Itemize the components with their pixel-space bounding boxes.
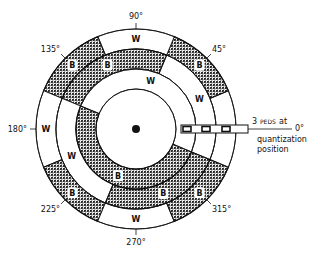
angle-marker-label: 270°: [126, 238, 145, 247]
middle-track-label: B: [103, 60, 113, 71]
segment-letter: W: [146, 77, 155, 86]
peds-at: at: [279, 117, 287, 126]
outer-track-label: B: [67, 187, 77, 198]
segment-letter: W: [132, 215, 141, 224]
segment-letter: B: [197, 61, 203, 70]
segment-letter: W: [195, 95, 204, 104]
angle-marker-label: 90°: [129, 12, 143, 21]
angle-marker-label: 225°: [41, 205, 60, 214]
segment-letter: B: [104, 61, 110, 70]
outer-track-label: W: [132, 35, 141, 44]
ped-sensor-strip: [181, 125, 292, 133]
segment-letter: B: [69, 189, 75, 198]
angle-tick: [207, 200, 211, 204]
zero-degree-label: 0°: [295, 124, 304, 133]
segment-letter: W: [42, 125, 51, 134]
ped-sensor-3: [222, 127, 230, 132]
outer-track-label: B: [67, 60, 77, 71]
outer-track-label: B: [195, 187, 205, 198]
ped-sensor-2: [202, 127, 210, 132]
segment-letter: B: [115, 172, 121, 181]
segment-letter: B: [197, 189, 203, 198]
position-label: position: [257, 145, 289, 154]
segment-letter: W: [67, 152, 76, 161]
angle-tick: [207, 54, 211, 58]
angle-marker-label: 180°: [8, 125, 27, 134]
middle-track-label: W: [67, 152, 76, 161]
inner-track-label: W: [146, 77, 155, 86]
middle-track-label: W: [195, 95, 204, 104]
peds-label: PEDS: [260, 118, 276, 125]
quantization-label: quantization: [257, 135, 307, 144]
inner-track-label: B: [113, 170, 123, 181]
segment-letter: B: [160, 189, 166, 198]
angle-marker-label: 315°: [212, 205, 231, 214]
segment-letter: W: [132, 35, 141, 44]
encoder-disk-diagram: WBWBWBWBWBWBWB 90°45°135°180°225°270°315…: [0, 0, 321, 259]
angle-tick: [61, 54, 65, 58]
angle-marker-label: 135°: [41, 45, 60, 54]
disk-center-hub: [132, 125, 140, 133]
angle-marker-label: 45°: [212, 45, 226, 54]
angle-tick: [61, 200, 65, 204]
outer-track-label: W: [132, 215, 141, 224]
outer-track-label: B: [195, 60, 205, 71]
peds-count: 3: [252, 117, 257, 126]
ped-sensor-1: [183, 127, 191, 132]
middle-track-label: B: [158, 188, 168, 199]
segment-letter: B: [69, 61, 75, 70]
outer-track-label: W: [42, 125, 51, 134]
